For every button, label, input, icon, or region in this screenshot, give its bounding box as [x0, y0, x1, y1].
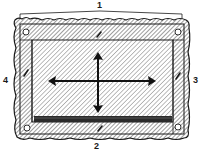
bottom-bar — [34, 116, 172, 122]
frame-illustration — [0, 0, 201, 154]
hole-bottom-left — [24, 125, 30, 131]
hole-top-left — [23, 29, 29, 35]
label-3: 3 — [193, 76, 198, 85]
hole-top-right — [175, 29, 181, 35]
hole-bottom-right — [175, 124, 181, 130]
label-4: 4 — [3, 76, 8, 85]
label-1: 1 — [97, 1, 102, 10]
label-2: 2 — [94, 142, 99, 151]
label-1-bracket — [20, 11, 182, 19]
diagram-canvas: 1 2 3 4 — [0, 0, 201, 154]
